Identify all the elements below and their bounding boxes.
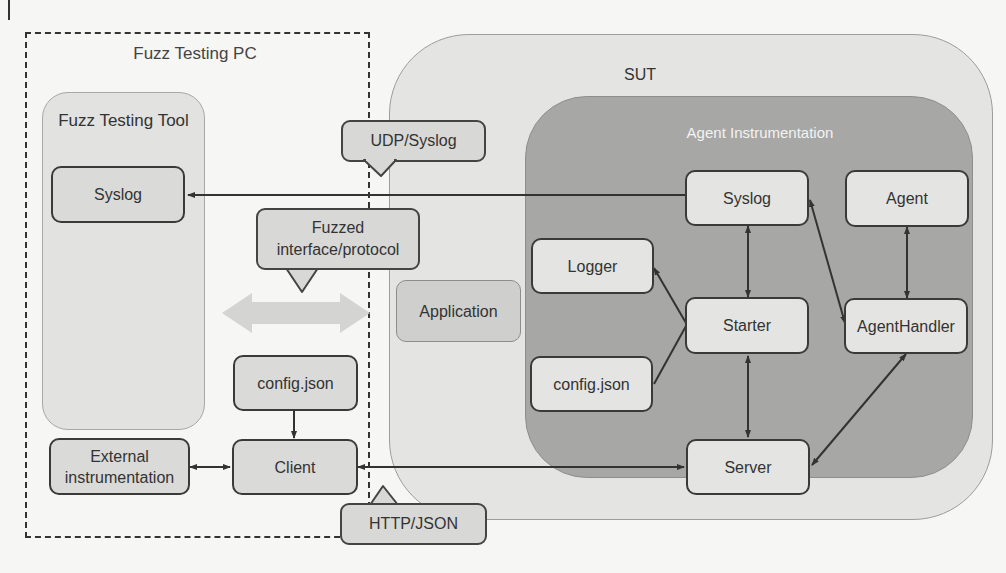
logger-label: Logger — [568, 256, 618, 277]
agent-handler-box: AgentHandler — [844, 298, 968, 354]
starter-box: Starter — [685, 297, 809, 354]
application-box: Application — [396, 280, 521, 342]
sut-config-label: config.json — [553, 374, 630, 395]
application-label: Application — [419, 301, 497, 322]
agent-label: Agent — [886, 188, 928, 209]
client-config-box: config.json — [233, 355, 358, 411]
tool-syslog-box: Syslog — [51, 166, 185, 223]
udp-syslog-callout: UDP/Syslog — [341, 120, 486, 162]
server-box: Server — [686, 439, 810, 495]
logger-box: Logger — [531, 238, 654, 294]
fuzzed-interface-callout: Fuzzed interface/protocol — [256, 208, 420, 270]
agent-syslog-label: Syslog — [723, 188, 771, 209]
starter-label: Starter — [723, 315, 771, 336]
sut-config-box: config.json — [530, 356, 653, 412]
agent-handler-label: AgentHandler — [857, 316, 955, 337]
fuzzed-double-arrow-icon — [222, 293, 370, 333]
client-box: Client — [232, 439, 358, 495]
server-label: Server — [724, 457, 771, 478]
client-config-label: config.json — [257, 373, 334, 394]
fuzzed-interface-label: Fuzzed interface/protocol — [258, 217, 418, 261]
http-json-callout: HTTP/JSON — [340, 503, 487, 545]
external-instrumentation-label: External instrumentation — [51, 446, 188, 488]
udp-syslog-label: UDP/Syslog — [370, 130, 456, 152]
external-instrumentation-box: External instrumentation — [49, 438, 190, 495]
client-label: Client — [275, 457, 316, 478]
agent-syslog-box: Syslog — [685, 170, 809, 226]
tool-syslog-label: Syslog — [94, 184, 142, 205]
http-json-label: HTTP/JSON — [369, 513, 458, 535]
agent-box: Agent — [845, 170, 969, 227]
